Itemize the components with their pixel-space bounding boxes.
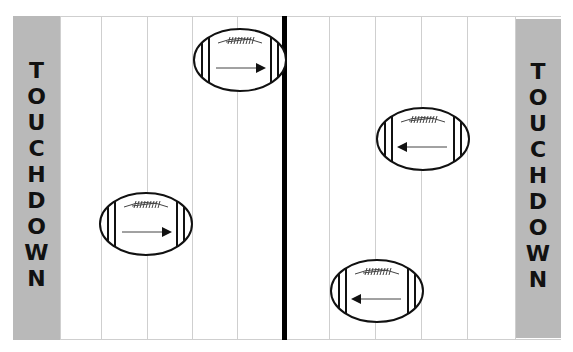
yard-line <box>101 16 102 340</box>
endzone-letter: H <box>529 163 547 189</box>
endzone-letter: C <box>28 136 44 162</box>
endzone-letter: O <box>529 85 548 111</box>
yard-line <box>147 16 148 340</box>
football-icon <box>98 191 194 257</box>
endzone-letter: O <box>27 214 46 240</box>
football-icon <box>329 258 425 324</box>
yard-line <box>515 16 516 340</box>
endzone-letter: D <box>27 188 45 214</box>
endzone-letter: W <box>526 241 550 267</box>
endzone-right-label: TOUCHDOWN <box>515 59 561 293</box>
football-icon <box>375 106 471 172</box>
yard-line <box>60 16 61 340</box>
endzone-letter: W <box>24 240 48 266</box>
endzone-letter: O <box>27 84 46 110</box>
endzone-letter: N <box>529 267 547 293</box>
endzone-letter: U <box>28 110 46 136</box>
endzone-letter: D <box>529 189 547 215</box>
yard-line <box>467 16 468 340</box>
endzone-right: TOUCHDOWN <box>515 19 561 338</box>
endzone-left-label: TOUCHDOWN <box>13 58 60 292</box>
football-icon <box>192 27 288 93</box>
endzone-letter: T <box>530 59 545 85</box>
endzone-letter: O <box>529 215 548 241</box>
endzone-letter: T <box>29 58 44 84</box>
endzone-letter: N <box>27 266 45 292</box>
endzone-letter: U <box>529 111 547 137</box>
endzone-letter: C <box>530 137 546 163</box>
endzone-left: TOUCHDOWN <box>13 16 60 340</box>
endzone-letter: H <box>27 162 45 188</box>
